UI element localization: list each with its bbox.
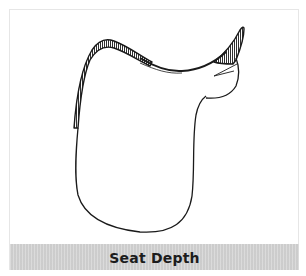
- seat-curve: [140, 52, 226, 73]
- caption-title: Seat Depth: [109, 250, 199, 266]
- cantle-hatched-edge: [74, 40, 152, 128]
- pommel-hatched-edge: [214, 27, 244, 64]
- saddle-flap: [76, 96, 206, 232]
- caption-band: Seat Depth: [10, 244, 299, 270]
- saddle-illustration: [0, 0, 306, 244]
